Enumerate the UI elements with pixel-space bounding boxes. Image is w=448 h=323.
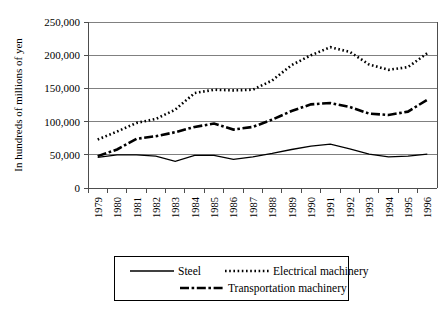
- x-axis-tick-label: 1986: [228, 197, 239, 218]
- x-axis-tick-label: 1993: [364, 197, 375, 218]
- gridlines: [88, 22, 437, 155]
- y-axis-tick-label: 250,000: [44, 16, 80, 28]
- x-axis-tick-label: 1984: [190, 196, 201, 218]
- x-axis-tick-label: 1982: [151, 197, 162, 218]
- legend-label-transportation-machinery: Transportation machinery: [228, 282, 347, 295]
- x-axis-tick-label: 1988: [267, 197, 278, 218]
- x-axis-tick-label: 1987: [248, 197, 259, 218]
- y-axis-title: In hundreds of millions of yen: [12, 38, 24, 172]
- x-axis-tick-label: 1992: [345, 197, 356, 218]
- x-axis-tick-labels: 1979198019811982198319841985198619871988…: [93, 196, 434, 218]
- x-axis-tick-label: 1991: [325, 197, 336, 218]
- y-axis-tick-marks: [84, 22, 88, 188]
- x-axis-tick-label: 1996: [422, 197, 433, 218]
- x-axis-tick-label: 1979: [93, 197, 104, 218]
- y-axis-tick-label: 0: [75, 182, 81, 194]
- chart-canvas: In hundreds of millions of yen 050,00010…: [0, 0, 448, 323]
- y-axis-tick-label: 200,000: [44, 49, 80, 61]
- y-axis-tick-label: 150,000: [44, 82, 80, 94]
- y-axis-title-text: In hundreds of millions of yen: [12, 38, 24, 172]
- series-line-transportation-machinery: [98, 100, 428, 156]
- y-axis-tick-label: 100,000: [44, 116, 80, 128]
- x-axis-tick-label: 1981: [132, 197, 143, 218]
- x-axis-tick-label: 1994: [384, 196, 395, 218]
- legend-label-electrical-machinery: Electrical machinery: [273, 265, 369, 278]
- x-axis-tick-label: 1983: [170, 197, 181, 218]
- data-series-group: [98, 47, 428, 161]
- legend-label-steel: Steel: [178, 265, 201, 277]
- x-axis-tick-marks: [88, 188, 418, 193]
- x-axis-tick-label: 1990: [306, 197, 317, 218]
- plot-frame: [88, 22, 437, 188]
- chart-legend: SteelElectrical machineryTransportation …: [114, 256, 369, 300]
- y-axis-tick-label: 50,000: [50, 149, 81, 161]
- x-axis-tick-label: 1980: [112, 197, 123, 218]
- x-axis-tick-label: 1985: [209, 197, 220, 218]
- x-axis-tick-label: 1995: [403, 197, 414, 218]
- series-line-electrical-machinery: [98, 47, 428, 139]
- line-chart-figure: In hundreds of millions of yen 050,00010…: [0, 0, 448, 323]
- y-axis-tick-labels: 050,000100,000150,000200,000250,000: [44, 16, 80, 194]
- x-axis-tick-label: 1989: [287, 197, 298, 218]
- series-line-steel: [98, 144, 428, 161]
